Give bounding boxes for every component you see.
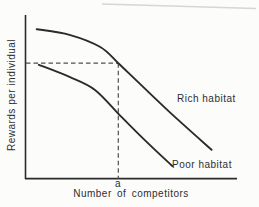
- x-marker-a-label: a: [108, 178, 128, 189]
- y-axis-label: Rewards per individual: [6, 39, 17, 151]
- rich-habitat-curve-label: Rich habitat: [177, 93, 236, 104]
- habitat-rewards-figure: Rewards per individual Number of competi…: [0, 0, 259, 207]
- rich-habitat-curve: [37, 29, 212, 150]
- x-axis-label: Number of competitors: [25, 188, 237, 199]
- poor-habitat-curve-label: Poor habitat: [172, 159, 232, 170]
- poor-habitat-curve: [39, 65, 173, 166]
- scan-artifact-line: [102, 4, 256, 9]
